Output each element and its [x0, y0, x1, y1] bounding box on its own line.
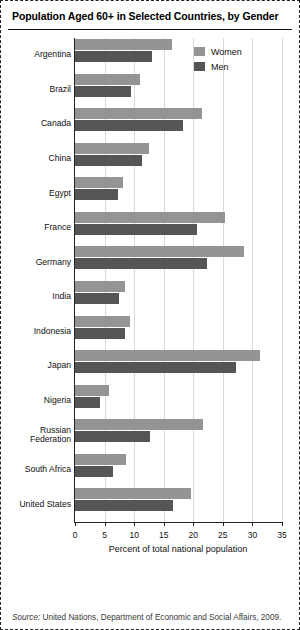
bar-women [75, 74, 140, 85]
x-axis-tick [134, 522, 135, 526]
page-title: Population Aged 60+ in Selected Countrie… [12, 10, 290, 23]
chart-row: France [75, 211, 282, 246]
bar-men [75, 397, 100, 408]
plot-area: 05101520253035ArgentinaBrazilCanadaChina… [74, 38, 282, 523]
bar-men [75, 51, 152, 62]
bar-men [75, 362, 236, 373]
bar-women [75, 246, 244, 257]
y-axis-category-label: United States [9, 500, 71, 510]
bar-men [75, 328, 125, 339]
x-axis-tick-label: 5 [102, 530, 107, 540]
chart-legend: Women Men [194, 44, 242, 74]
bar-women [75, 108, 202, 119]
chart-row: Nigeria [75, 384, 282, 419]
chart-row: Russian Federation [75, 418, 282, 453]
legend-item-men: Men [194, 59, 242, 74]
y-axis-category-label: China [9, 154, 71, 164]
plot-area-wrapper: 05101520253035ArgentinaBrazilCanadaChina… [8, 32, 294, 552]
x-axis-tick-label: 10 [129, 530, 138, 540]
bar-women [75, 177, 123, 188]
bar-women [75, 419, 203, 430]
bar-men [75, 258, 207, 269]
bar-men [75, 189, 118, 200]
y-axis-category-label: South Africa [9, 465, 71, 475]
x-axis-tick [75, 522, 76, 526]
chart-row: China [75, 142, 282, 177]
y-axis-category-label: Russian Federation [9, 426, 71, 445]
y-axis-category-label: Brazil [9, 85, 71, 95]
legend-label-women: Women [211, 47, 242, 57]
source-text: United Nations, Department of Economic a… [40, 613, 281, 622]
bar-women [75, 316, 130, 327]
legend-swatch-men-icon [194, 62, 205, 71]
legend-swatch-women-icon [194, 47, 205, 56]
x-axis-tick [193, 522, 194, 526]
bar-men [75, 500, 173, 511]
y-axis-category-label: Egypt [9, 189, 71, 199]
y-axis-category-label: Germany [9, 258, 71, 268]
x-axis-tick-label: 30 [248, 530, 257, 540]
bar-men [75, 293, 119, 304]
bar-women [75, 212, 225, 223]
x-axis-tick [105, 522, 106, 526]
x-axis-tick [223, 522, 224, 526]
chart-figure: Population Aged 60+ in Selected Countrie… [0, 0, 300, 630]
source-note: Source: United Nations, Department of Ec… [12, 613, 289, 624]
source-prefix: Source: [12, 613, 40, 622]
x-axis-tick [282, 522, 283, 526]
bar-men [75, 120, 183, 131]
x-axis-tick-label: 25 [218, 530, 227, 540]
y-axis-category-label: France [9, 223, 71, 233]
bar-men [75, 431, 150, 442]
chart-row: Japan [75, 349, 282, 384]
legend-item-women: Women [194, 44, 242, 59]
bar-men [75, 224, 197, 235]
y-axis-category-label: Canada [9, 120, 71, 130]
x-axis-tick [164, 522, 165, 526]
x-axis-tick-label: 0 [73, 530, 78, 540]
chart-row: Indonesia [75, 315, 282, 350]
bar-women [75, 385, 109, 396]
bar-women [75, 488, 191, 499]
chart-row: South Africa [75, 453, 282, 488]
y-axis-category-label: Nigeria [9, 396, 71, 406]
bar-women [75, 143, 149, 154]
bar-men [75, 466, 113, 477]
chart-title-bar: Population Aged 60+ in Selected Countrie… [8, 7, 292, 30]
x-axis-tick [252, 522, 253, 526]
bar-women [75, 454, 126, 465]
chart-row: India [75, 280, 282, 315]
bar-women [75, 350, 260, 361]
chart-row: Germany [75, 245, 282, 280]
x-axis-tick-label: 15 [159, 530, 168, 540]
chart-row: Argentina [75, 38, 282, 73]
x-gridline [282, 38, 283, 522]
chart-row: United States [75, 487, 282, 522]
y-axis-category-label: Argentina [9, 50, 71, 60]
bar-women [75, 281, 125, 292]
x-axis-tick-label: 35 [277, 530, 286, 540]
chart-row: Egypt [75, 176, 282, 211]
y-axis-category-label: India [9, 292, 71, 302]
legend-label-men: Men [211, 62, 229, 72]
bar-men [75, 155, 142, 166]
x-axis-label: Percent of total national population [74, 544, 282, 554]
y-axis-category-label: Japan [9, 362, 71, 372]
bar-women [75, 39, 172, 50]
y-axis-category-label: Indonesia [9, 327, 71, 337]
chart-row: Canada [75, 107, 282, 142]
bar-men [75, 86, 131, 97]
x-axis-tick-label: 20 [189, 530, 198, 540]
chart-row: Brazil [75, 73, 282, 108]
